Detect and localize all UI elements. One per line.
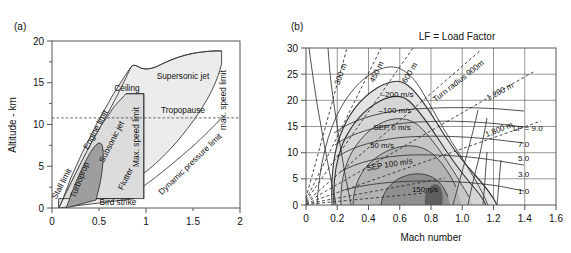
panel-b-ytick-30: 30 xyxy=(287,43,299,54)
max-speed-boundary-4 xyxy=(497,160,501,205)
panel-a-svg: (a) Altitude - km xyxy=(0,0,285,253)
panel-a-xtick-0: 0 xyxy=(49,216,55,227)
label-max-speed-limit: Max. speed limit xyxy=(131,106,141,167)
panel-a-xtick-1: 1 xyxy=(143,216,149,227)
panel-a-xtick-1_5: 1.5 xyxy=(186,216,200,227)
panel-b-ytick-15: 15 xyxy=(287,121,299,132)
panel-b-tag: (b) xyxy=(291,21,303,32)
label-lf-9: LF = 9.0 xyxy=(513,124,543,133)
label-turn-radius-600: 600 m xyxy=(400,61,420,85)
label-lf-5: 5.0 xyxy=(518,154,530,163)
label-turn-radius-450: 450 m xyxy=(368,60,386,84)
label-sep-150: 150m/s xyxy=(412,185,438,194)
panel-a-xtick-0_5: 0.5 xyxy=(92,216,106,227)
panel-b: (b) LF = Load Factor Turn rate - deg/s xyxy=(285,0,571,253)
label-turn-radius-900: Turn radius 900m xyxy=(431,58,486,104)
panel-b-load-factor-labels: LF = 9.0 7.0 5.0 3.0 1.0 xyxy=(513,124,543,196)
label-ceiling: Ceiling xyxy=(114,83,140,93)
panel-a-ytick-0: 0 xyxy=(38,203,44,214)
panel-b-ytick-10: 10 xyxy=(287,147,299,158)
panel-a-xaxis: 0 0.5 1 1.5 2 xyxy=(49,208,243,227)
panel-b-xtick-1_0: 1.0 xyxy=(455,213,469,224)
panel-a-yaxis: 0 5 10 15 20 xyxy=(33,36,52,214)
legend-load-factor-note: LF = Load Factor xyxy=(419,31,496,42)
panel-a-tag: (a) xyxy=(14,21,26,32)
panel-b-xtick-1_4: 1.4 xyxy=(518,213,532,224)
panel-b-xtick-0_8: 0.8 xyxy=(424,213,438,224)
label-lf-1: 1.0 xyxy=(518,187,530,196)
label-tropopause: Tropopause xyxy=(161,105,205,115)
label-lf-7: 7.0 xyxy=(518,140,530,149)
panel-a-ylabel: Altitude - km xyxy=(7,97,18,153)
label-bird-strike: Bird strike xyxy=(100,197,137,207)
label-max-speed-limit-right: max. speed limit xyxy=(218,69,228,130)
panel-b-ytick-25: 25 xyxy=(287,69,299,80)
panel-b-ytick-20: 20 xyxy=(287,95,299,106)
figure-container: (a) Altitude - km xyxy=(0,0,571,253)
label-sep-0: SEP 0 m/s xyxy=(373,123,411,132)
panel-b-xaxis: 0 0.2 0.4 0.6 0.8 1.0 1.2 1.4 1.6 Mach n… xyxy=(303,205,563,243)
label-sep-minus100: –100 m/s xyxy=(379,106,412,115)
panel-b-xtick-1_2: 1.2 xyxy=(487,213,501,224)
panel-b-xtick-0: 0 xyxy=(303,213,309,224)
panel-b-xtick-0_4: 0.4 xyxy=(362,213,376,224)
label-turn-radius-1200: 1,200 m xyxy=(485,81,515,103)
panel-b-yaxis: 0 5 10 15 20 25 30 xyxy=(287,43,306,211)
panel-b-xtick-0_6: 0.6 xyxy=(393,213,407,224)
panel-a-ytick-10: 10 xyxy=(33,119,45,130)
panel-b-xtick-0_2: 0.2 xyxy=(330,213,344,224)
panel-b-ytick-5: 5 xyxy=(292,173,298,184)
label-lf-3: 3.0 xyxy=(518,170,530,179)
panel-a-ytick-20: 20 xyxy=(33,36,45,47)
panel-a: (a) Altitude - km xyxy=(0,0,285,253)
panel-b-ytick-0: 0 xyxy=(292,200,298,211)
label-sep-minus200: –200 m/s xyxy=(381,90,414,99)
panel-b-xlabel: Mach number xyxy=(400,232,462,243)
panel-a-ytick-15: 15 xyxy=(33,77,45,88)
panel-a-ytick-5: 5 xyxy=(38,161,44,172)
panel-b-svg: (b) LF = Load Factor Turn rate - deg/s xyxy=(285,0,571,253)
label-supersonic-jet: Supersonic jet xyxy=(157,71,210,81)
panel-b-xtick-1_6: 1.6 xyxy=(549,213,563,224)
panel-a-xtick-2: 2 xyxy=(237,216,243,227)
label-sep-50: 50 m/s xyxy=(370,141,394,150)
